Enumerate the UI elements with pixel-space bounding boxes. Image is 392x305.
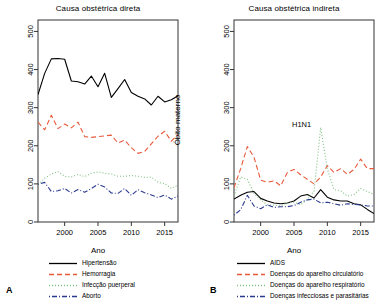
svg-text:2005: 2005 — [286, 228, 303, 237]
svg-text:2015: 2015 — [352, 228, 369, 237]
svg-text:2005: 2005 — [90, 228, 107, 237]
panel-a-x-axis-label: Ano — [0, 246, 196, 255]
svg-text:100: 100 — [222, 178, 231, 191]
legend-item: Doenças do aparelho circulatório — [236, 269, 369, 280]
svg-text:2010: 2010 — [123, 228, 140, 237]
legend-line-swatch — [236, 270, 266, 279]
legend-label: Hemorragia — [82, 271, 115, 277]
svg-text:400: 400 — [26, 63, 35, 76]
svg-text:0: 0 — [222, 220, 231, 224]
legend-item: Aborto — [48, 291, 135, 302]
legend-item: Doenças infecciosas e parasitárias — [236, 291, 369, 302]
svg-text:300: 300 — [26, 101, 35, 114]
svg-text:300: 300 — [222, 101, 231, 114]
panel-a-plot-area: 01002003004005002000200520102015 — [0, 0, 196, 250]
legend-item: Hipertensão — [48, 258, 135, 269]
svg-text:2010: 2010 — [319, 228, 336, 237]
legend-label: Doenças do aparelho circulatório — [270, 271, 363, 277]
panel-a-legend: HipertensãoHemorragiaInfecção puerperalA… — [48, 258, 135, 302]
legend-line-swatch — [48, 259, 78, 268]
legend-item: Doenças do aparelho respiratório — [236, 280, 369, 291]
legend-line-swatch — [48, 292, 78, 301]
h1n1-annotation: H1N1 — [292, 120, 311, 129]
legend-label: Aborto — [82, 293, 101, 299]
figure-container: Causa obstétrica direta Óbito materno 01… — [0, 0, 392, 305]
panel-a-letter: A — [6, 285, 13, 295]
legend-label: AIDS — [270, 260, 285, 266]
svg-text:500: 500 — [26, 25, 35, 38]
svg-text:200: 200 — [26, 140, 35, 153]
legend-label: Doenças infecciosas e parasitárias — [270, 293, 369, 299]
legend-label: Infecção puerperal — [82, 282, 135, 288]
panel-b-legend: AIDSDoenças do aparelho circulatórioDoen… — [236, 258, 369, 302]
svg-text:0: 0 — [26, 220, 35, 224]
panel-b: Causa obstétrica indireta Óbito materno … — [196, 0, 392, 305]
svg-text:2015: 2015 — [156, 228, 173, 237]
legend-line-swatch — [236, 281, 266, 290]
legend-item: Infecção puerperal — [48, 280, 135, 291]
svg-text:100: 100 — [26, 178, 35, 191]
svg-text:400: 400 — [222, 63, 231, 76]
legend-label: Doenças do aparelho respiratório — [270, 282, 365, 288]
panel-b-letter: B — [210, 285, 217, 295]
panel-b-x-axis-label: Ano — [196, 246, 392, 255]
svg-text:2000: 2000 — [56, 228, 73, 237]
legend-line-swatch — [48, 270, 78, 279]
legend-line-swatch — [48, 281, 78, 290]
panel-a: Causa obstétrica direta Óbito materno 01… — [0, 0, 196, 305]
svg-text:2000: 2000 — [252, 228, 269, 237]
legend-label: Hipertensão — [82, 260, 116, 266]
svg-text:500: 500 — [222, 25, 231, 38]
panel-b-y-axis-label: Óbito materno — [173, 95, 182, 146]
legend-item: AIDS — [236, 258, 369, 269]
legend-line-swatch — [236, 259, 266, 268]
legend-line-swatch — [236, 292, 266, 301]
svg-text:200: 200 — [222, 140, 231, 153]
legend-item: Hemorragia — [48, 269, 135, 280]
